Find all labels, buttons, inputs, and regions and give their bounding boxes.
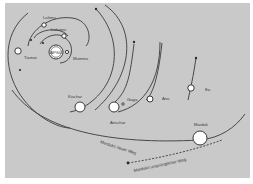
mummu-label: Mummu [73,56,89,61]
arrow-head [95,8,97,10]
ea-label: Ea [205,87,211,92]
arrow-head [133,41,135,43]
mummu-planet [65,50,68,53]
tiamat-label: Tiamat [24,55,37,60]
anschar-planet [109,102,119,112]
solar-system-diagram: APSU Lahmu Lahamu Mummu Tiamat Kischar A… [0,0,253,184]
arrow-head [30,39,32,41]
arrow-head [19,69,21,71]
lahamu-planet [62,34,66,38]
kischar-label: Kischar [68,94,83,99]
lahmu-planet [42,23,46,27]
lahamu-label: Lahamu [51,27,67,32]
orbit-gaga [115,44,134,102]
marduk-new-path-label: Marduks neuer Weg [100,139,138,156]
gaga-label: Gaga [127,97,138,102]
orbit-anschar [118,42,160,112]
apsu-label: APSU [50,50,61,55]
marduk-original-end-dot [127,162,130,165]
tiamat-planet [15,48,21,54]
lahmu-label: Lahmu [43,15,56,20]
gaga-small [122,103,124,105]
arrow-head [195,57,197,59]
marduk-original-path-label: Marduks ursprünglicher Weg [133,157,187,173]
marduk-label: Marduk [194,122,209,127]
gaga-planet [147,96,153,102]
arrow-head [42,42,44,44]
kischar-planet [75,102,85,112]
orbit-ea [188,58,196,100]
marduk-planet [193,131,207,145]
anschar-label: Anschar [110,120,126,125]
ea-planet [188,85,194,91]
anu-label: Anu [162,96,170,101]
